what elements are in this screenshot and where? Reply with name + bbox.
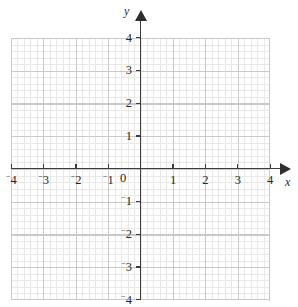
- x-tick-mark: [43, 164, 44, 169]
- y-tick-mark: [136, 201, 141, 202]
- x-tick-label: 4: [261, 174, 279, 187]
- x-tick-label: ⁻4: [2, 174, 20, 187]
- y-tick-label: 1: [112, 130, 132, 143]
- coordinate-grid-figure: x y 0 ⁻4⁻3⁻2⁻11234 4321⁻1⁻2⁻3⁻4: [0, 0, 298, 307]
- x-tick-label: ⁻3: [35, 174, 53, 187]
- y-tick-mark: [136, 70, 141, 71]
- y-tick-mark: [136, 103, 141, 104]
- x-tick-mark: [108, 164, 109, 169]
- y-axis-line: [140, 20, 141, 300]
- y-tick-mark: [136, 299, 141, 300]
- x-tick-mark: [270, 164, 271, 169]
- y-tick-mark: [136, 37, 141, 38]
- origin-label: 0: [120, 172, 126, 185]
- y-tick-label: ⁻4: [112, 294, 132, 307]
- x-tick-mark: [75, 164, 76, 169]
- x-tick-label: ⁻2: [67, 174, 85, 187]
- y-axis-label: y: [124, 5, 129, 17]
- y-tick-label: ⁻3: [112, 261, 132, 274]
- x-tick-label: 3: [229, 174, 247, 187]
- x-tick-mark: [205, 164, 206, 169]
- y-tick-label: 2: [112, 97, 132, 110]
- y-axis-arrow-icon: [135, 10, 147, 21]
- x-tick-label: 2: [196, 174, 214, 187]
- y-tick-label: 4: [112, 32, 132, 45]
- y-tick-mark: [136, 234, 141, 235]
- y-tick-label: ⁻1: [112, 195, 132, 208]
- x-tick-mark: [172, 164, 173, 169]
- x-tick-label: 1: [164, 174, 182, 187]
- grid-edge-right: [269, 38, 270, 301]
- y-tick-mark: [136, 266, 141, 267]
- x-tick-mark: [237, 164, 238, 169]
- x-axis-label: x: [285, 176, 290, 188]
- x-tick-mark: [11, 164, 12, 169]
- y-tick-label: ⁻2: [112, 228, 132, 241]
- y-tick-label: 3: [112, 64, 132, 77]
- x-tick-label: ⁻1: [99, 174, 117, 187]
- x-axis-arrow-icon: [280, 163, 291, 175]
- y-tick-mark: [136, 135, 141, 136]
- x-axis-line: [11, 168, 282, 169]
